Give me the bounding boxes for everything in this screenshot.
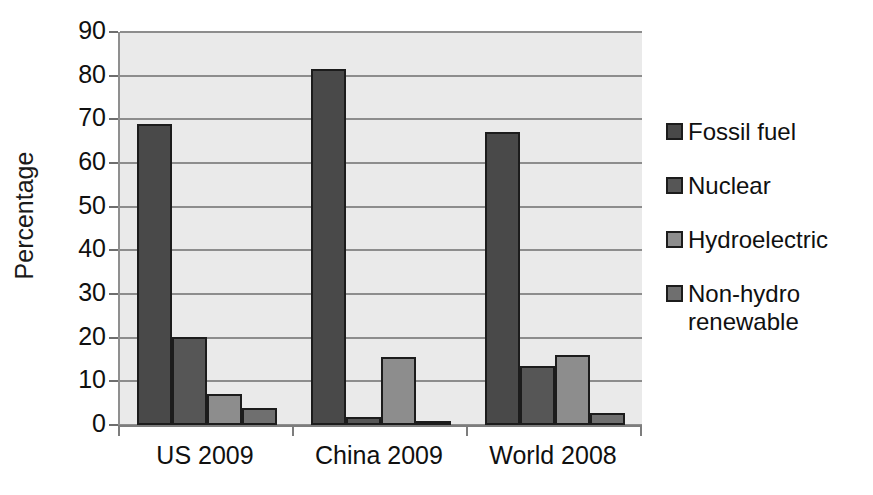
legend-swatch-icon — [666, 177, 683, 194]
bar — [311, 69, 346, 425]
x-axis-category-label: China 2009 — [292, 440, 466, 470]
y-axis-tick-mark — [109, 293, 118, 295]
x-axis-tick-mark — [466, 426, 468, 436]
y-axis-tick-label: 30 — [48, 280, 106, 305]
x-axis-line — [118, 425, 642, 427]
y-axis-title-text: Percentage — [11, 151, 40, 279]
y-axis-tick-mark — [109, 118, 118, 120]
x-axis-category-label: World 2008 — [466, 440, 640, 470]
legend-swatch-icon — [666, 285, 683, 302]
y-axis-tick-label: 10 — [48, 367, 106, 392]
y-axis-tick-mark — [109, 337, 118, 339]
bar — [137, 124, 172, 425]
bar — [381, 357, 416, 425]
y-axis-tick-labels: 9080706050403020100 — [48, 0, 110, 495]
bar — [242, 408, 277, 425]
y-axis-tick-mark — [109, 206, 118, 208]
y-axis-title: Percentage — [2, 0, 48, 430]
y-axis-tick-label: 70 — [48, 105, 106, 130]
x-axis-tick-mark — [292, 426, 294, 436]
legend-item-label: Hydroelectric — [688, 226, 828, 254]
bar — [485, 132, 520, 425]
plot-area — [118, 32, 642, 425]
legend-item: Non-hydro renewable — [666, 280, 871, 336]
gridline — [120, 293, 642, 295]
x-axis-tick-mark — [640, 426, 642, 436]
bar — [555, 355, 590, 425]
bar — [590, 413, 625, 425]
y-axis-tick-mark — [109, 162, 118, 164]
y-axis-tick-mark — [109, 31, 118, 33]
y-axis-tick-mark — [109, 75, 118, 77]
y-axis-tick-label: 0 — [48, 411, 106, 436]
legend-item: Hydroelectric — [666, 226, 871, 254]
legend-item-label: Non-hydro renewable — [688, 280, 871, 336]
y-axis-tick-label: 90 — [48, 18, 106, 43]
y-axis-tick-mark — [109, 380, 118, 382]
gridline — [120, 162, 642, 164]
legend-item: Nuclear — [666, 172, 871, 200]
y-axis-tick-label: 50 — [48, 193, 106, 218]
bar — [346, 417, 381, 425]
bar — [520, 366, 555, 425]
y-axis-tick-label: 40 — [48, 236, 106, 261]
chart-legend: Fossil fuelNuclearHydroelectricNon-hydro… — [666, 118, 871, 362]
bar — [207, 394, 242, 425]
gridline — [120, 75, 642, 77]
y-axis-tick-mark — [109, 424, 118, 426]
x-axis-tick-mark — [118, 426, 120, 436]
y-axis-tick-label: 20 — [48, 324, 106, 349]
y-axis-tick-mark — [109, 249, 118, 251]
bar-chart: Percentage 9080706050403020100 Fossil fu… — [0, 0, 873, 495]
legend-item: Fossil fuel — [666, 118, 871, 146]
gridline — [120, 249, 642, 251]
bar — [172, 337, 207, 425]
gridline — [120, 206, 642, 208]
legend-item-label: Fossil fuel — [688, 118, 796, 146]
legend-swatch-icon — [666, 123, 683, 140]
y-axis-tick-label: 60 — [48, 149, 106, 174]
legend-swatch-icon — [666, 231, 683, 248]
y-axis-tick-label: 80 — [48, 62, 106, 87]
x-axis-category-label: US 2009 — [118, 440, 292, 470]
gridline — [120, 31, 642, 33]
legend-item-label: Nuclear — [688, 172, 771, 200]
gridline — [120, 118, 642, 120]
